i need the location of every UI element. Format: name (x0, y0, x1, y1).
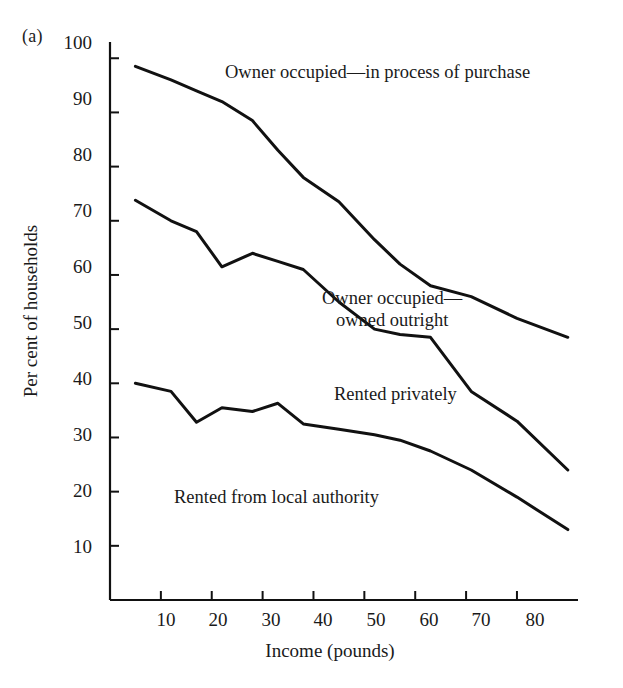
y-tick-label: 60 (46, 257, 92, 276)
y-tick-label: 40 (46, 369, 92, 388)
y-tick-label: 30 (46, 425, 92, 444)
y-axis-title: Per cent of households (20, 196, 42, 426)
panel-label: (a) (22, 26, 43, 47)
y-tick-label: 70 (46, 201, 92, 220)
x-tick-label: 10 (146, 610, 186, 629)
plot-area (0, 0, 623, 688)
chart-figure: (a) Per cent of households Income (pound… (0, 0, 623, 688)
x-tick-label: 80 (515, 610, 555, 629)
x-tick-label: 70 (461, 610, 501, 629)
y-tick-label: 20 (46, 481, 92, 500)
y-tick-label: 90 (46, 89, 92, 108)
y-tick-label: 10 (46, 537, 92, 556)
x-tick-label: 50 (356, 610, 396, 629)
y-tick-label: 80 (46, 145, 92, 164)
series-annotation-owner-occupied-purchase: Owner occupied—in process of purchase (225, 62, 530, 84)
x-tick-label: 30 (251, 610, 291, 629)
x-axis-ticks (161, 591, 517, 600)
y-tick-label: 100 (46, 33, 92, 52)
x-tick-label: 60 (409, 610, 449, 629)
series-annotation-rented-privately: Rented privately (334, 384, 457, 406)
series-annotation-owner-occupied-outright: Owner occupied— owned outright (322, 288, 462, 332)
y-axis-ticks (110, 58, 119, 546)
series-line (135, 200, 567, 470)
x-tick-label: 20 (198, 610, 238, 629)
series-annotation-rented-local-authority: Rented from local authority (174, 487, 379, 509)
x-axis-title: Income (pounds) (210, 640, 450, 662)
y-tick-label: 50 (46, 313, 92, 332)
x-tick-label: 40 (303, 610, 343, 629)
